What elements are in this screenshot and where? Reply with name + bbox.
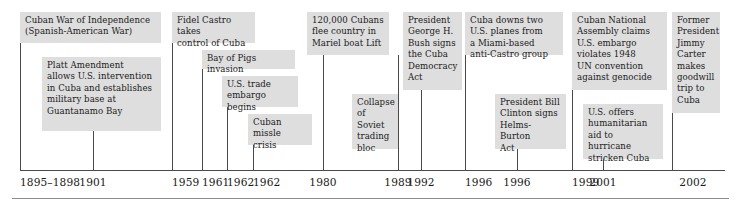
date-label-cuban-missle-crisis: 1962 [253,176,280,188]
timeline-axis-line [20,170,725,171]
date-label-us-trade-embargo: 1962 [227,176,254,188]
timeline-figure: Cuban War of Independence (Spanish-Ameri… [0,0,741,202]
date-label-platt-amendment: 1901 [79,176,106,188]
tick-line-un-convention-genocide [572,90,573,170]
date-label-mariel-boat-lift: 1980 [309,176,336,188]
event-box-platt-amendment: Platt Amendment allows U.S. intervention… [42,57,161,131]
tick-line-jimmy-carter-trip [672,113,673,170]
tick-line-mariel-boat-lift [323,55,324,170]
date-label-cuban-war-of-independence: 1895–1898 [20,176,80,188]
tick-line-collapse-soviet-bloc [398,55,399,170]
tick-line-platt-amendment [93,131,94,170]
date-label-jimmy-carter-trip: 2002 [679,176,706,188]
event-box-jimmy-carter-trip: Former President Jimmy Carter makes good… [672,12,720,113]
tick-line-cuban-missle-crisis [253,145,254,170]
tick-line-bay-of-pigs [202,69,203,170]
event-box-helms-burton-act: President Bill Clinton signs Helms-Burto… [495,94,566,149]
tick-line-cuba-democracy-act [421,90,422,170]
tick-line-cuba-downs-planes [465,55,466,170]
event-box-bay-of-pigs: Bay of Pigs invasion [202,50,295,69]
tick-line-fidel-castro-control [172,43,173,170]
date-label-helms-burton-act: 1996 [503,176,530,188]
date-label-bay-of-pigs: 1961 [202,176,229,188]
tick-line-helms-burton-act [517,149,518,170]
date-label-hurricane-aid: 2001 [589,176,616,188]
date-label-cuba-downs-planes: 1996 [465,176,492,188]
date-label-fidel-castro-control: 1959 [172,176,199,188]
event-box-hurricane-aid: U.S. offers humanitarian aid to hurrican… [583,104,663,159]
tick-line-hurricane-aid [603,159,604,170]
bottom-divider-rule [12,198,729,199]
event-box-collapse-soviet-bloc: Collapse of Soviet trading bloc [352,94,398,149]
event-box-us-trade-embargo: U.S. trade embargo begins [222,76,298,107]
tick-line-cuban-war-of-independence [20,43,21,170]
event-box-cuba-downs-planes: Cuba downs two U.S. planes from a Miami-… [465,12,563,55]
date-label-cuba-democracy-act: 1992 [407,176,434,188]
event-box-fidel-castro-control: Fidel Castro takes control of Cuba [172,12,255,43]
tick-line-us-trade-embargo [227,107,228,170]
event-box-cuba-democracy-act: President George H. Bush signs the Cuba … [403,12,462,90]
event-box-cuban-missle-crisis: Cuban missle crisis [248,114,312,145]
event-box-cuban-war-of-independence: Cuban War of Independence (Spanish-Ameri… [20,12,161,43]
event-box-un-convention-genocide: Cuban National Assembly claims U.S. emba… [572,12,667,90]
event-box-mariel-boat-lift: 120,000 Cubans flee country in Mariel bo… [307,12,389,55]
